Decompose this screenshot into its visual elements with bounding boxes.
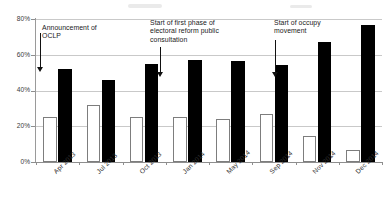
y-tick-label: 0% <box>0 158 30 165</box>
y-tick-label: 80% <box>0 15 30 22</box>
bar-chart: 80% 60% 40% 20% 0% Apr 2013Jul 2013Oct 2… <box>0 0 392 208</box>
annotation-arrow-announcement-oclp <box>37 33 44 72</box>
bar-white-series-jul-2013 <box>87 105 101 162</box>
bar-white-series-nov-2014 <box>303 136 317 162</box>
bar-black-series-may-2014 <box>231 61 245 162</box>
y-tick-label: 20% <box>0 122 30 129</box>
bar-black-series-jul-2013 <box>102 80 116 162</box>
bar-group <box>339 19 382 162</box>
bar-black-series-oct-2013 <box>145 64 159 162</box>
bar-white-series-oct-2013 <box>130 117 144 162</box>
x-tick-mark <box>79 162 80 165</box>
y-tick-label: 40% <box>0 86 30 93</box>
x-tick-mark <box>252 162 253 165</box>
bar-white-series-dec-2014 <box>346 150 360 163</box>
annotation-occupy-movement: Start of occupy movement <box>274 19 350 36</box>
x-tick-mark <box>339 162 340 165</box>
bar-black-series-dec-2014 <box>361 25 375 162</box>
bar-black-series-nov-2014 <box>318 42 332 162</box>
annotation-arrow-electoral-reform-consultation <box>157 47 164 77</box>
annotation-announcement-oclp: Announcement of OCLP <box>42 24 122 41</box>
annotation-arrow-occupy-movement <box>272 40 279 77</box>
annotation-electoral-reform-consultation: Start of first phase of electoral reform… <box>150 19 242 44</box>
x-tick-mark <box>209 162 210 165</box>
bar-black-series-sep-2014 <box>275 65 289 162</box>
x-tick-mark <box>166 162 167 165</box>
scan-artifact <box>128 4 162 8</box>
bar-white-series-jan-2014 <box>173 117 187 162</box>
bar-white-series-apr-2013 <box>43 117 57 162</box>
y-axis-labels: 80% 60% 40% 20% 0% <box>0 0 34 208</box>
x-tick-mark <box>123 162 124 165</box>
bar-black-series-apr-2013 <box>58 69 72 162</box>
x-tick-mark <box>382 162 383 165</box>
bar-white-series-sep-2014 <box>260 114 274 162</box>
x-tick-mark <box>36 162 37 165</box>
bar-group <box>296 19 339 162</box>
x-tick-mark <box>296 162 297 165</box>
bar-white-series-may-2014 <box>216 119 230 162</box>
y-tick-label: 60% <box>0 51 30 58</box>
bar-black-series-jan-2014 <box>188 60 202 162</box>
scan-artifact <box>290 5 312 8</box>
